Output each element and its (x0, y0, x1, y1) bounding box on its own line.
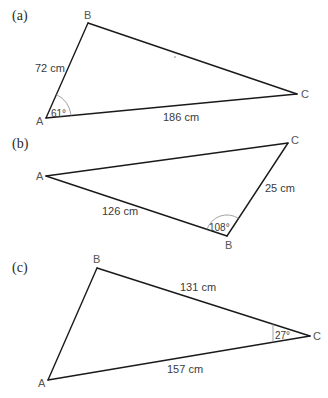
angle-label-a: 61° (51, 108, 66, 119)
side-label-bc-c: 131 cm (180, 281, 216, 293)
side-bc-c (97, 268, 310, 336)
vertex-a-c: A (38, 377, 46, 389)
vertex-a-b: A (36, 170, 44, 182)
vertex-b-a: B (84, 9, 91, 21)
vertex-a-a: A (36, 115, 44, 127)
vertex-b-b: B (225, 239, 232, 251)
side-ab-c (48, 268, 97, 380)
part-label-c: (c) (12, 260, 28, 276)
side-label-ab-a: 72 cm (35, 62, 65, 74)
part-label-a: (a) (12, 8, 28, 24)
vertex-c-b: C (291, 134, 299, 146)
vertex-c-a: C (301, 88, 309, 100)
side-label-ac-c: 157 cm (167, 363, 203, 375)
triangle-a: (a) B A C 72 cm 186 cm 61° (12, 8, 309, 127)
triangle-b: (b) A B C 126 cm 25 cm 108° (12, 134, 299, 251)
vertex-b-c: B (93, 253, 100, 265)
angle-label-c: 27° (275, 330, 290, 341)
triangle-c: (c) A B C 131 cm 157 cm 27° (12, 253, 321, 389)
triangle-diagram: (a) B A C 72 cm 186 cm 61° (b) A B C 126… (0, 0, 328, 398)
side-label-bc-b: 25 cm (265, 182, 295, 194)
side-label-ab-b: 126 cm (102, 205, 138, 217)
vertex-c-c: C (313, 330, 321, 342)
side-bc-a (88, 23, 297, 94)
side-label-ac-a: 186 cm (163, 111, 199, 123)
angle-label-b: 108° (209, 222, 230, 233)
side-ac-b (46, 143, 288, 176)
stray-dot (174, 56, 176, 58)
part-label-b: (b) (12, 136, 29, 152)
